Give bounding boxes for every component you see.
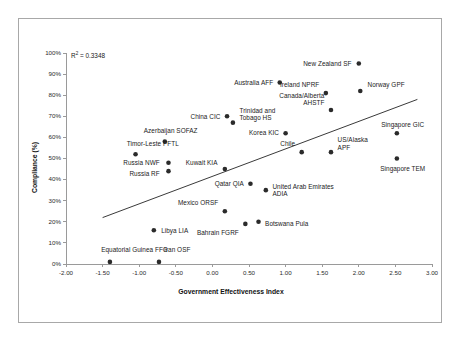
y-tick-label: 40% xyxy=(24,176,61,182)
data-point-label: Botswana Pula xyxy=(265,220,375,227)
data-point-label: United Arab Emirates ADIA xyxy=(272,183,382,198)
data-point-label: China CIC xyxy=(110,113,220,120)
data-point-label: Canada/Alberta AHSTF xyxy=(214,92,324,107)
data-point-label: Bahrain FGRF xyxy=(129,229,239,236)
chart-frame: 0%10%20%30%40%50%60%70%80%90%100%-2.00-1… xyxy=(18,18,442,323)
y-tick-label: 70% xyxy=(24,113,61,119)
data-point xyxy=(395,156,400,161)
x-axis-title: Government Effectiveness Index xyxy=(19,288,442,295)
x-tick-label: -2.00 xyxy=(46,270,86,276)
x-tick-label: 1.00 xyxy=(266,270,306,276)
y-tick-label: 10% xyxy=(24,240,61,246)
x-tick-label: 2.00 xyxy=(339,270,379,276)
x-tick-label: 0.00 xyxy=(192,270,232,276)
data-point xyxy=(223,209,228,214)
data-point xyxy=(133,152,138,157)
y-tick-label: 80% xyxy=(24,92,61,98)
data-point xyxy=(283,131,288,136)
y-tick-label: 100% xyxy=(24,50,61,56)
x-tick-label: -0.50 xyxy=(156,270,196,276)
data-point xyxy=(264,188,269,193)
x-tick-label: -1.50 xyxy=(83,270,123,276)
x-tick-label: -1.00 xyxy=(119,270,159,276)
y-tick-label: 60% xyxy=(24,134,61,140)
y-axis-title: Compliance (%) xyxy=(31,142,38,193)
x-tick-label: 0.50 xyxy=(229,270,269,276)
x-tick-label: 1.50 xyxy=(302,270,342,276)
data-point xyxy=(248,182,253,187)
data-point xyxy=(108,260,113,265)
data-point-label: Iran OSF xyxy=(164,246,274,253)
data-point xyxy=(329,150,334,155)
data-point xyxy=(357,61,362,66)
data-point xyxy=(299,150,304,155)
data-point-label: Norway GPF xyxy=(368,81,442,88)
data-point-label: US/Alaska APF xyxy=(338,136,442,151)
data-point xyxy=(223,167,228,172)
data-point-label: Kuwait KIA xyxy=(108,159,218,166)
r-squared-annotation: R2 = 0.3348 xyxy=(71,51,105,59)
scatter-plot-area: 0%10%20%30%40%50%60%70%80%90%100%-2.00-1… xyxy=(19,19,442,323)
data-point xyxy=(231,120,236,125)
data-point-label: Qatar QIA xyxy=(134,180,244,187)
data-point xyxy=(166,169,171,174)
data-point-label: New Zealand SF xyxy=(241,60,351,67)
data-point-label: Mexico ORSF xyxy=(108,199,218,206)
data-point-label: Trinidad and Tobago HS xyxy=(239,107,349,122)
x-tick-label: 2.50 xyxy=(375,270,415,276)
y-tick-label: 90% xyxy=(24,71,61,77)
data-point xyxy=(358,89,363,94)
data-point xyxy=(243,222,248,227)
y-tick-label: 0% xyxy=(24,261,61,267)
data-point-label: Korea KIC xyxy=(169,129,279,136)
y-tick-label: 30% xyxy=(24,198,61,204)
data-point-label: Singapore GIC xyxy=(348,121,442,128)
data-point xyxy=(225,114,230,119)
data-point-label: Russia RF xyxy=(50,170,160,177)
data-point-label: Singapore TEM xyxy=(348,165,442,172)
data-point-label: Chile xyxy=(185,140,295,147)
x-tick-label: 3.00 xyxy=(412,270,442,276)
data-point xyxy=(157,260,162,265)
y-tick-label: 20% xyxy=(24,219,61,225)
data-point-label: Australia AFF xyxy=(163,79,273,86)
data-point xyxy=(395,131,400,136)
data-point xyxy=(256,220,261,225)
